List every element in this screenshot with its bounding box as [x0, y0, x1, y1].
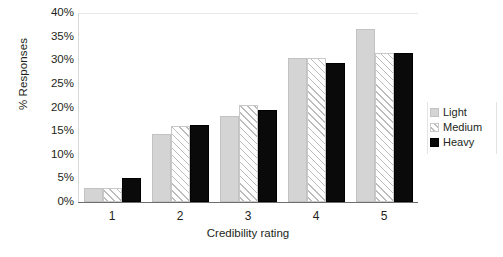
chart-legend: LightMediumHeavy: [427, 102, 497, 154]
x-axis-tick-label: 4: [282, 206, 350, 226]
x-axis-tick-labels: 12345: [78, 206, 418, 226]
bar-medium-5: [375, 53, 394, 202]
bar-light-2: [152, 134, 171, 203]
legend-label: Heavy: [443, 137, 474, 148]
legend-item-light[interactable]: Light: [430, 105, 494, 120]
bar-light-1: [84, 188, 103, 202]
y-axis-tick-label: 0%: [36, 196, 74, 208]
y-axis-tick-label: 20%: [36, 102, 74, 114]
bar-medium-2: [171, 126, 190, 202]
bar-group: [350, 14, 418, 202]
x-axis-tick-label: 2: [146, 206, 214, 226]
bar-heavy-5: [394, 53, 413, 202]
y-axis-tick-labels: 0%5%10%15%20%25%30%35%40%: [36, 13, 74, 202]
x-axis-tick-label: 5: [350, 206, 418, 226]
legend-label: Medium: [443, 122, 482, 133]
legend-item-heavy[interactable]: Heavy: [430, 135, 494, 150]
bar-heavy-1: [122, 178, 141, 202]
y-axis-tick-label: 15%: [36, 125, 74, 137]
bar-heavy-3: [258, 110, 277, 202]
legend-swatch-light-icon: [430, 108, 439, 117]
y-axis-tick-label: 5%: [36, 173, 74, 185]
bar-light-3: [220, 116, 239, 202]
bar-group: [147, 14, 215, 202]
x-axis-title: Credibility rating: [78, 227, 418, 239]
bar-medium-3: [239, 105, 258, 202]
legend-swatch-medium-icon: [430, 123, 439, 132]
x-axis-tick-label: 1: [78, 206, 146, 226]
bar-groups: [79, 14, 418, 202]
bar-light-4: [288, 58, 307, 202]
bar-group: [282, 14, 350, 202]
bar-heavy-2: [190, 125, 209, 202]
y-axis-tick-label: 30%: [36, 55, 74, 67]
bar-medium-1: [103, 188, 122, 202]
y-axis-tick-label: 25%: [36, 78, 74, 90]
x-axis-line: [78, 202, 418, 203]
legend-swatch-heavy-icon: [430, 138, 439, 147]
y-axis-title: % Responses: [17, 14, 29, 134]
x-axis-tick-label: 3: [214, 206, 282, 226]
legend-label: Light: [443, 107, 467, 118]
bar-chart: % Responses 0%5%10%15%20%25%30%35%40% 12…: [0, 0, 503, 257]
bar-heavy-4: [326, 63, 345, 202]
bar-group: [215, 14, 283, 202]
bar-group: [79, 14, 147, 202]
y-axis-tick-label: 10%: [36, 149, 74, 161]
y-axis-tick-label: 35%: [36, 31, 74, 43]
bar-medium-4: [307, 58, 326, 202]
y-axis-tick-label: 40%: [36, 7, 74, 19]
legend-item-medium[interactable]: Medium: [430, 120, 494, 135]
plot-area: [78, 13, 418, 202]
bar-light-5: [356, 29, 375, 202]
